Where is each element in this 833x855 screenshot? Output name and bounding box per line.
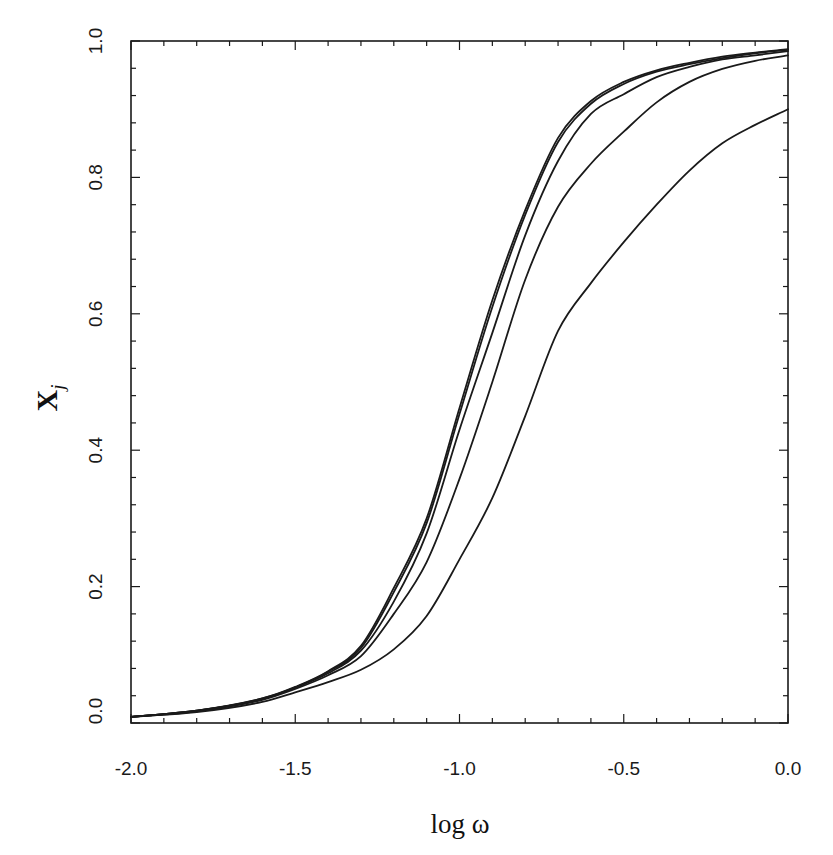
y-tick-label: 0.6: [85, 301, 106, 327]
curve-3: [131, 51, 788, 717]
y-tick-label: 0.0: [85, 698, 106, 724]
y-tick-label: 0.2: [85, 573, 106, 599]
x-tick-label: -2.0: [115, 758, 148, 779]
y-tick-label: 0.8: [85, 164, 106, 190]
curve-4: [131, 55, 788, 717]
x-axis-title: log ω: [430, 809, 489, 839]
curve-1: [131, 49, 788, 717]
y-tick-labels: 0.00.20.40.60.81.0: [85, 28, 106, 724]
y-axis-title-main: X: [30, 389, 63, 411]
x-tick-labels: -2.0-1.5-1.0-0.50.0: [115, 758, 802, 779]
x-tick-label: -0.5: [607, 758, 640, 779]
y-tick-label: 0.4: [85, 437, 106, 464]
y-axis-title: Xj: [30, 385, 68, 412]
curve-2: [131, 50, 788, 717]
x-tick-label: -1.0: [443, 758, 476, 779]
x-tick-label: 0.0: [775, 758, 801, 779]
y-tick-label: 1.0: [85, 28, 106, 54]
plot-frame: [131, 41, 788, 723]
x-tick-label: -1.5: [279, 758, 312, 779]
chart: -2.0-1.5-1.0-0.50.0 0.00.20.40.60.81.0 l…: [0, 0, 833, 855]
axis-ticks: [131, 41, 788, 723]
data-curves: [131, 49, 788, 717]
